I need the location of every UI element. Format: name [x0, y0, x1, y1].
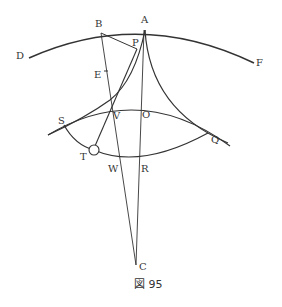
label-b: B	[95, 18, 102, 29]
label-w: W	[108, 163, 119, 174]
label-s: S	[58, 115, 65, 126]
label-p: P	[132, 37, 139, 48]
label-q: Q	[211, 134, 219, 145]
label-t: T	[80, 151, 87, 162]
label-o: O	[142, 109, 150, 120]
label-d: D	[16, 50, 24, 61]
label-f: F	[256, 57, 263, 68]
geometry-diagram: A B P D F E S V O Q T W R C 図 95	[0, 0, 282, 307]
label-e: E	[94, 69, 101, 80]
line-bc	[101, 33, 136, 265]
point-t-circle	[89, 145, 99, 155]
label-v: V	[112, 110, 121, 121]
arc-dbaf	[29, 34, 254, 63]
figure-95: A B P D F E S V O Q T W R C 図 95	[0, 0, 282, 307]
line-ac	[136, 30, 144, 265]
label-c: C	[139, 261, 147, 272]
label-a: A	[140, 14, 149, 25]
arc-svoq	[48, 110, 230, 146]
figure-caption: 図 95	[134, 278, 163, 291]
label-r: R	[141, 163, 149, 174]
